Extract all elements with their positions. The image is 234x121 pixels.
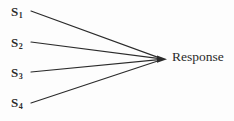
stimulus-base-s3: S — [11, 65, 18, 80]
stimulus-label-s2: S2 — [11, 36, 22, 49]
stimulus-label-s4: S4 — [11, 96, 22, 109]
stimulus-subscript-s3: 3 — [19, 72, 23, 81]
stimulus-base-s1: S — [11, 4, 18, 19]
stimulus-label-s3: S3 — [11, 66, 22, 79]
diagram-canvas: S1 S2 S3 S4 Response — [0, 0, 234, 121]
arrowhead-icon — [157, 56, 167, 63]
stimulus-subscript-s2: 2 — [19, 42, 23, 51]
stimulus-subscript-s1: 1 — [19, 11, 23, 20]
stimulus-base-s4: S — [11, 95, 18, 110]
response-label: Response — [172, 50, 224, 64]
stimulus-base-s2: S — [11, 35, 18, 50]
stimulus-subscript-s4: 4 — [19, 102, 23, 111]
stimulus-label-s1: S1 — [11, 5, 22, 18]
connector-s2-response — [31, 42, 162, 59]
connector-s1-response — [31, 11, 162, 59]
